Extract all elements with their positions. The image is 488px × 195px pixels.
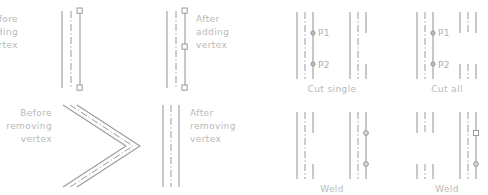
panel-label-line-1: After <box>190 108 214 118</box>
cut-point-p1-marker <box>311 31 315 35</box>
panel-label-line-2: adding <box>196 27 229 37</box>
weld-marker-round-lower <box>474 162 479 167</box>
cut-point-p2-label: P2 <box>318 60 330 70</box>
panel-label-line-3: vertex <box>0 40 18 50</box>
cut-point-p2-marker <box>431 62 435 66</box>
panel-caption: Cut single <box>307 84 356 94</box>
panel-label-line-3: vertex <box>196 40 227 50</box>
panel-cut-all: P1 P2 Cut all <box>417 12 476 94</box>
chevron-outer-line-1 <box>63 105 126 187</box>
vertex-marker-top <box>77 8 82 13</box>
panel-label-line-2: removing <box>6 121 52 131</box>
cut-point-p2-marker <box>311 62 315 66</box>
panel-label-line-2: removing <box>190 121 236 131</box>
panel-before-adding-vertex: Before adding vertex <box>0 8 82 90</box>
panel-caption: Cut all <box>431 84 463 94</box>
vertex-marker-bottom <box>77 85 82 90</box>
panel-label-line-1: Before <box>0 14 18 24</box>
cut-point-p2-label: P2 <box>438 60 450 70</box>
panel-before-removing-vertex: Before removing vertex <box>6 105 140 187</box>
weld-marker-upper <box>364 131 369 136</box>
diagram-canvas: Before adding vertex After adding vertex… <box>0 0 488 195</box>
weld-marker-square-upper <box>474 131 479 136</box>
panel-label-line-3: vertex <box>190 134 221 144</box>
panel-label-line-2: adding <box>0 27 18 37</box>
panel-label-line-3: vertex <box>21 134 52 144</box>
panel-weld-single: Weld <box>297 112 368 194</box>
cut-point-p1-label: P1 <box>438 28 450 38</box>
panel-label-line-1: After <box>196 14 220 24</box>
cut-point-p1-label: P1 <box>318 28 330 38</box>
panel-weld-all: Weld <box>417 112 479 194</box>
vertex-marker-top <box>182 8 187 13</box>
panel-after-adding-vertex: After adding vertex <box>167 8 229 90</box>
chevron-centerline <box>70 105 133 187</box>
cut-point-p1-marker <box>431 31 435 35</box>
panel-caption: Weld <box>435 184 459 194</box>
vertex-marker-added-middle <box>182 44 187 49</box>
panel-after-removing-vertex: After removing vertex <box>163 105 236 187</box>
chevron-outer-line-2 <box>77 105 140 187</box>
panel-caption: Weld <box>320 184 344 194</box>
vertex-marker-bottom <box>182 85 187 90</box>
polyline-operations-figure: Before adding vertex After adding vertex… <box>0 0 488 195</box>
weld-marker-lower <box>364 162 369 167</box>
panel-label-line-1: Before <box>20 108 52 118</box>
panel-cut-single: P1 P2 Cut single <box>297 12 366 94</box>
